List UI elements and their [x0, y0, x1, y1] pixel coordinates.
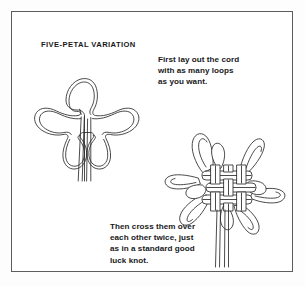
knot-inner-loop-top [212, 143, 225, 168]
good-luck-knot-drawing [162, 115, 292, 270]
knot-tail-3 [225, 210, 226, 267]
illustration-page: FIVE-PETAL VARIATION First lay out the c… [0, 0, 305, 287]
caption-top-line-2: with as many loops [158, 65, 278, 76]
caption-top-line-3: as you want. [158, 76, 278, 87]
knot-tail-2 [220, 210, 221, 267]
figure-five-loop-cord-layout [26, 54, 150, 182]
five-loop-cord-drawing [26, 54, 150, 182]
figure-good-luck-knot [162, 115, 292, 270]
page-title: FIVE-PETAL VARIATION [41, 40, 136, 50]
caption-top-line-1: First lay out the cord [158, 54, 278, 65]
content-panel: FIVE-PETAL VARIATION First lay out the c… [11, 11, 293, 272]
knot-tail-1 [216, 210, 218, 267]
caption-top: First lay out the cord with as many loop… [158, 54, 278, 88]
knot-loop-upper-left [192, 134, 213, 173]
